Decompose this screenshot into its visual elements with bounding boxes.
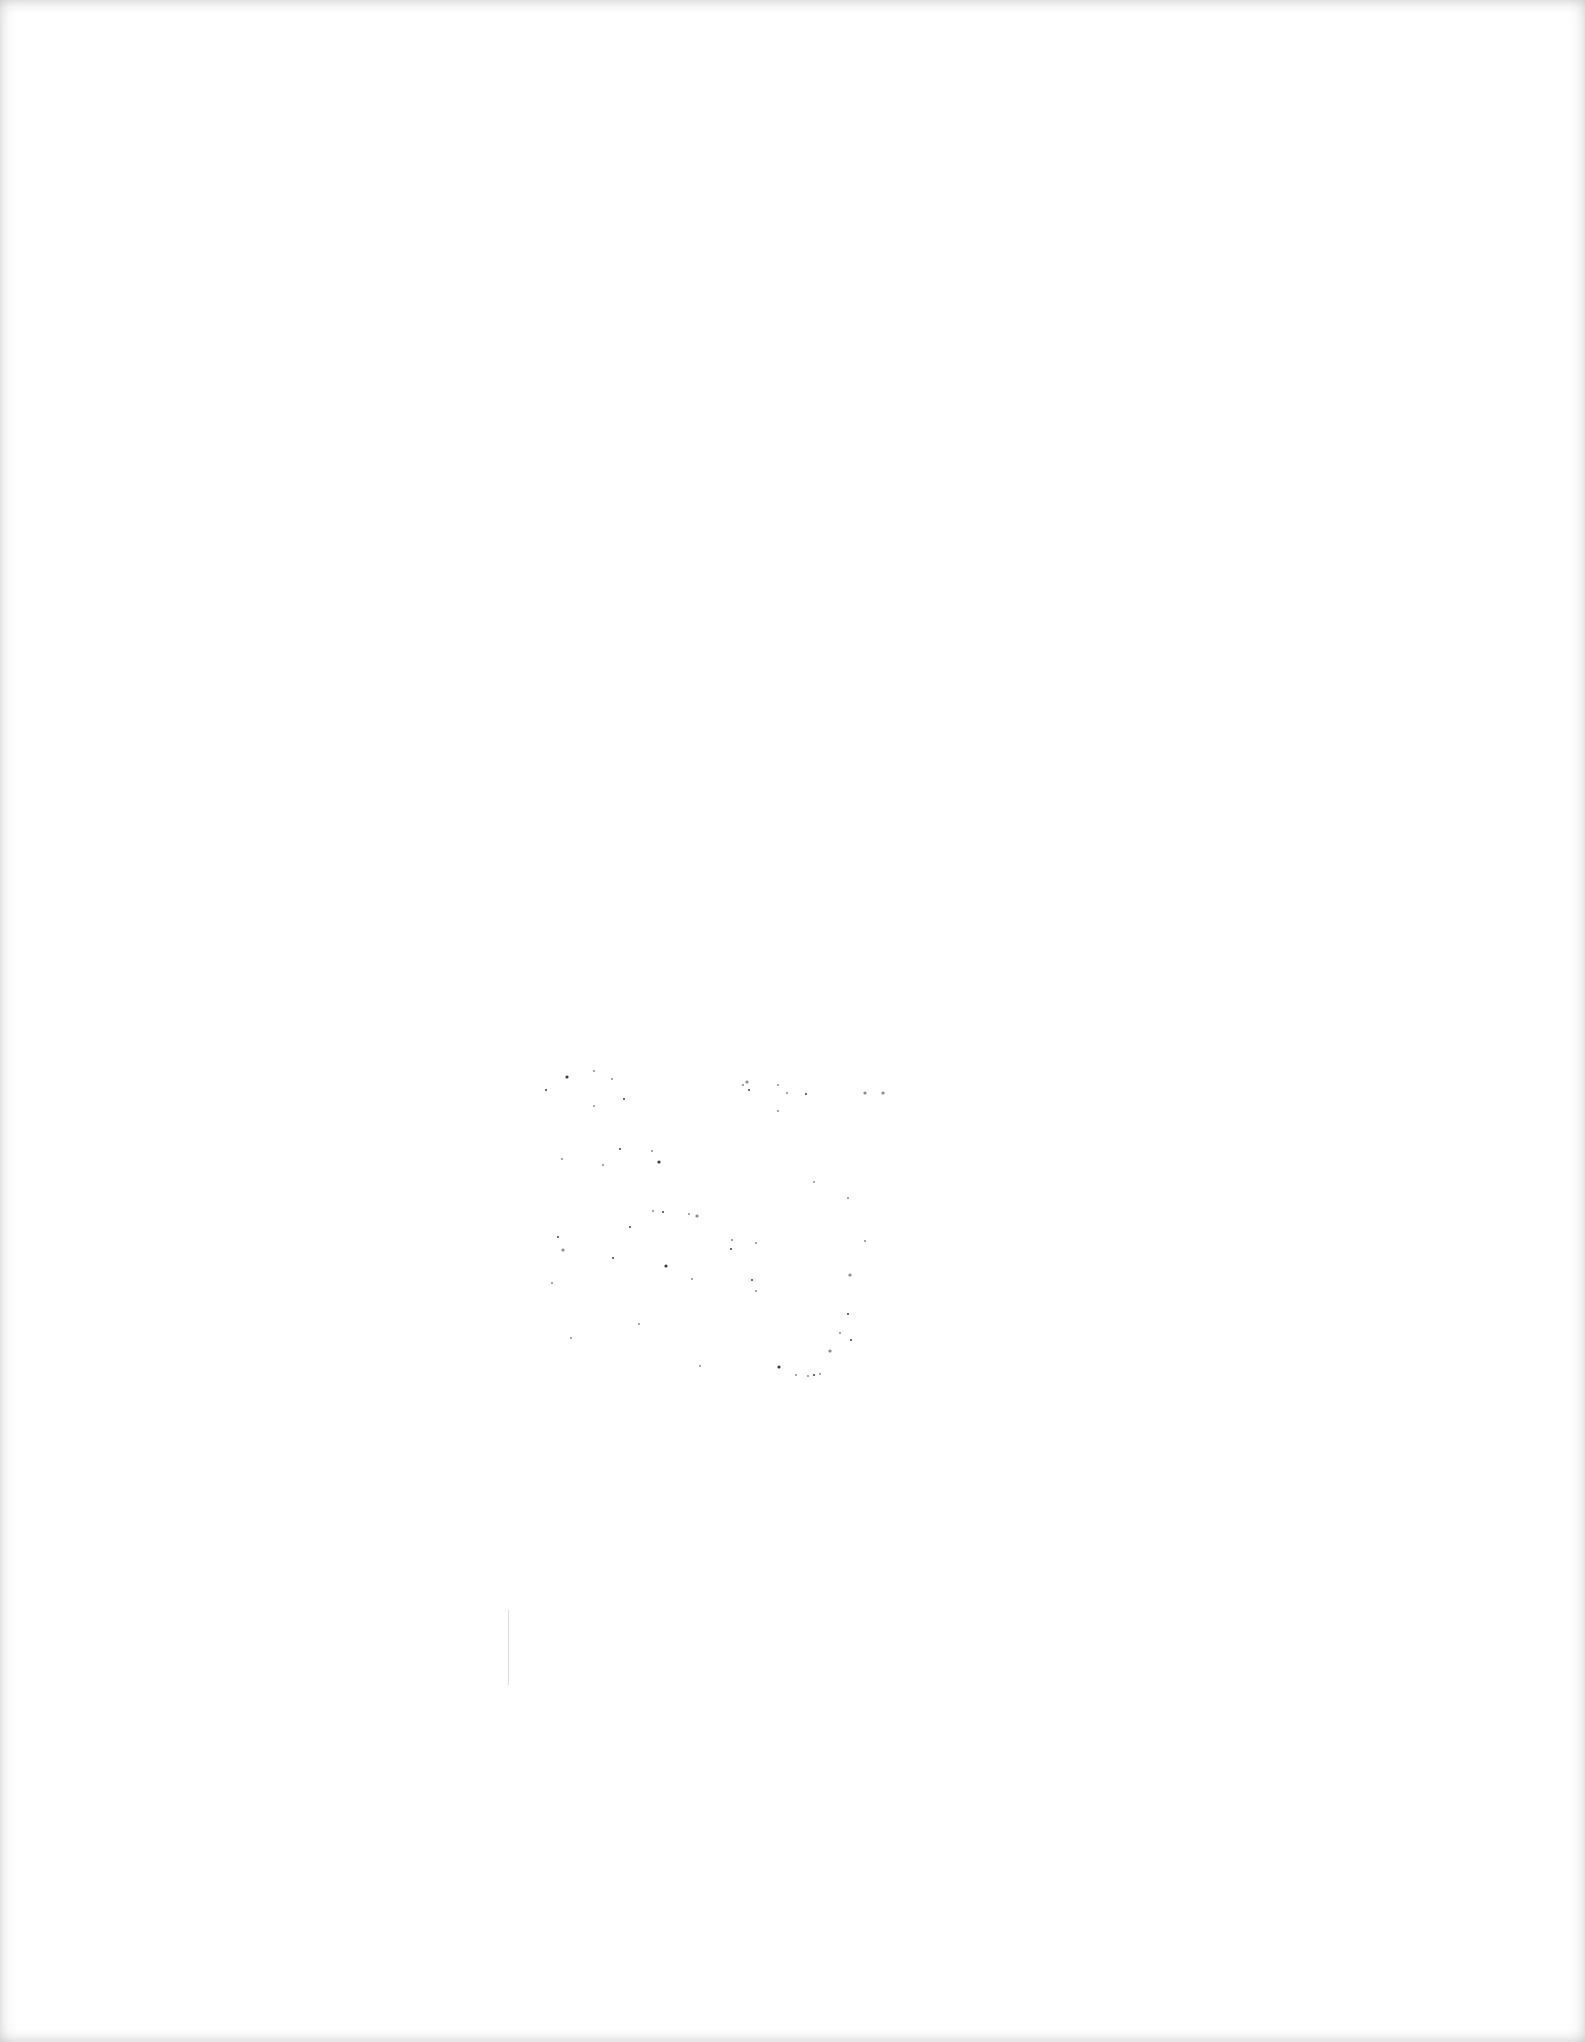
faint-scan-line [508, 1610, 509, 1685]
scan-noise-specks [0, 0, 1585, 2042]
blank-scanned-page [0, 0, 1585, 2042]
